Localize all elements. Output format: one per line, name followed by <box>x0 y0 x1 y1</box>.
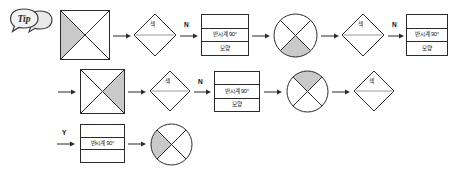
decision-color-label: 색 <box>369 79 374 85</box>
branch-label-n: N <box>392 22 397 29</box>
branch-label-y: Y <box>62 130 66 137</box>
arrow-right <box>128 89 146 95</box>
arrow-right-branch-n <box>194 89 211 95</box>
decision-color <box>341 13 385 57</box>
process-row-rotate: 반시계 90° <box>202 29 248 43</box>
process-row-shape: 모양 <box>215 99 259 111</box>
process-row-empty-bottom <box>81 150 124 162</box>
decision-color <box>353 70 395 112</box>
decision-color-label: 색 <box>358 22 363 28</box>
arrow-right <box>332 89 350 95</box>
circle-shaded-bottom <box>273 13 318 58</box>
arrow-right <box>58 89 76 95</box>
arrow-right-branch-y <box>57 141 75 147</box>
process-row-empty <box>215 72 259 85</box>
arrow-right-branch-n <box>180 33 198 39</box>
branch-label-n: N <box>184 22 189 29</box>
process-row-shape: 모양 <box>202 42 248 55</box>
decision-color <box>149 70 191 112</box>
flowchart-canvas: Tip 색 N 반시계 <box>0 0 452 169</box>
arrow-right <box>252 33 270 39</box>
process-row-empty <box>407 15 447 29</box>
branch-label-n: N <box>198 79 203 86</box>
arrow-right <box>113 33 131 39</box>
process-row-shape: 모양 <box>407 42 447 55</box>
circle-shaded-top <box>286 70 329 113</box>
decision-color-label: 색 <box>150 22 155 28</box>
process-rotate-shape: 반시계 90° 모양 <box>201 14 249 56</box>
square-shaded-left <box>60 10 110 60</box>
circle-shaded-left <box>150 123 193 166</box>
tip-badge: Tip <box>10 7 54 37</box>
decision-color <box>133 13 177 57</box>
square-shaded-right <box>80 69 125 114</box>
process-row-empty <box>81 125 124 138</box>
svg-text:Tip: Tip <box>18 14 31 24</box>
tip-badge-icon: Tip <box>10 7 54 37</box>
arrow-right <box>128 141 146 147</box>
process-row-rotate: 반시계 90° <box>215 85 259 98</box>
arrow-right <box>321 33 339 39</box>
arrow-right-branch-n <box>388 33 404 39</box>
process-row-empty <box>202 15 248 29</box>
process-rotate-shape: 반시계 90° 모양 <box>214 71 260 112</box>
process-row-rotate: 반시계 90° <box>81 138 124 151</box>
process-rotate-shape: 반시계 90° 모양 <box>406 14 448 56</box>
arrow-right <box>264 89 282 95</box>
decision-color-label: 색 <box>165 79 170 85</box>
process-rotate: 반시계 90° <box>80 124 125 163</box>
process-row-rotate: 반시계 90° <box>407 29 447 43</box>
